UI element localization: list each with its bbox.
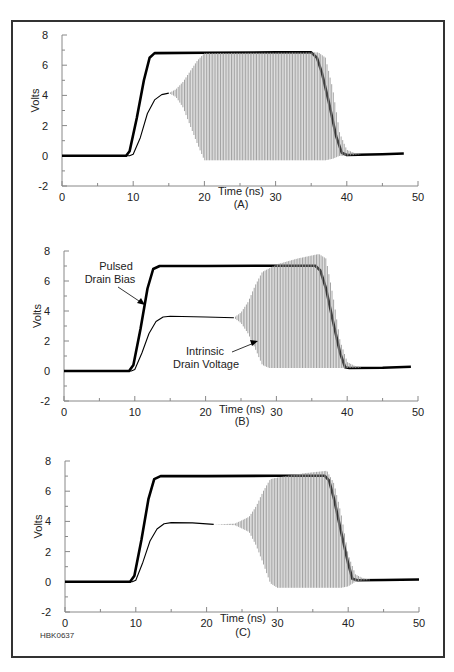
y-tick-label: 2 (44, 335, 50, 347)
panel-caption: (A) (234, 198, 249, 210)
annotation-arrow (232, 343, 254, 352)
x-tick-label: 40 (342, 617, 354, 629)
x-axis-title: Time (ns) (220, 612, 266, 624)
intrinsic-drain-voltage-line (62, 93, 169, 156)
panel-caption: (B) (235, 415, 250, 427)
x-tick-label: 50 (412, 191, 424, 203)
x-axis-title: Time (ns) (219, 403, 265, 415)
panel-caption: (C) (235, 626, 250, 638)
x-tick-label: 10 (130, 617, 142, 629)
y-tick-label: -2 (40, 395, 50, 407)
y-tick-label: 2 (45, 546, 51, 558)
x-tick-label: 20 (199, 406, 211, 418)
panel-c: -20246801020304050Time (ns)Volts(C) (32, 455, 425, 638)
annotation-pulsed-drain-bias: Pulsed (99, 260, 133, 272)
x-tick-label: 0 (62, 617, 68, 629)
pulsed-drain-bias-line (65, 476, 419, 582)
panel-b: -20246801020304050Time (ns)Volts(B)Pulse… (31, 245, 424, 427)
y-tick-label: 0 (45, 576, 51, 588)
x-tick-label: 30 (271, 617, 283, 629)
x-tick-label: 50 (413, 617, 425, 629)
annotation-pulsed-drain-bias: Drain Bias (85, 273, 136, 285)
x-tick-label: 40 (341, 191, 353, 203)
y-tick-label: 8 (42, 29, 48, 41)
y-tick-label: 0 (44, 365, 50, 377)
x-tick-label: 30 (270, 406, 282, 418)
x-tick-label: 0 (59, 191, 65, 203)
y-axis-title: Volts (31, 304, 43, 328)
annotation-intrinsic-drain-voltage: Intrinsic (186, 345, 224, 357)
y-tick-label: 6 (42, 59, 48, 71)
y-axis-title: Volts (29, 88, 41, 112)
y-tick-label: 8 (44, 245, 50, 257)
y-tick-label: 2 (42, 120, 48, 132)
figure-id-label: HBK0637 (40, 631, 75, 640)
y-tick-label: 4 (42, 89, 48, 101)
x-tick-label: 50 (412, 406, 424, 418)
x-axis-title: Time (ns) (218, 185, 264, 197)
y-tick-label: 8 (45, 455, 51, 467)
y-tick-label: -2 (38, 180, 48, 192)
x-tick-label: 0 (61, 406, 67, 418)
panel-a: -20246801020304050Time (ns)Volts(A) (29, 29, 424, 210)
arrow-head-icon (137, 298, 145, 305)
y-axis-title: Volts (32, 514, 44, 538)
x-tick-label: 10 (127, 191, 139, 203)
annotation-arrow (118, 287, 142, 303)
annotation-intrinsic-drain-voltage: Drain Voltage (173, 358, 239, 370)
figure-chart: -20246801020304050Time (ns)Volts(A)-2024… (0, 0, 454, 672)
x-tick-label: 20 (200, 617, 212, 629)
oscillation-series (169, 52, 360, 160)
x-tick-label: 10 (129, 406, 141, 418)
x-tick-label: 30 (269, 191, 281, 203)
y-tick-label: 6 (44, 275, 50, 287)
x-tick-label: 40 (341, 406, 353, 418)
y-tick-label: 0 (42, 150, 48, 162)
y-tick-label: 6 (45, 485, 51, 497)
y-tick-label: 4 (44, 305, 50, 317)
y-tick-label: 4 (45, 515, 51, 527)
oscillation-series (214, 471, 370, 588)
x-tick-label: 20 (198, 191, 210, 203)
y-tick-label: -2 (41, 606, 51, 618)
oscillation-series (234, 254, 360, 368)
